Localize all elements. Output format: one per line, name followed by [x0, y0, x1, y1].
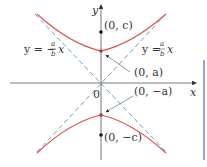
vertex-top-point	[99, 49, 103, 53]
focus-top-label: (0, c)	[104, 19, 133, 32]
x-axis-label: x	[190, 86, 197, 99]
svg-text:x: x	[58, 43, 65, 56]
focus-top-point	[99, 30, 103, 34]
origin-label: 0	[93, 88, 100, 101]
focus-bottom-point	[99, 133, 103, 137]
svg-text:y =: y =	[141, 43, 161, 56]
svg-text:x: x	[167, 43, 174, 56]
svg-text:b: b	[160, 50, 165, 58]
svg-text:a: a	[51, 40, 55, 48]
asymptote-negative-label: y = − a b x	[23, 40, 65, 58]
vertex-bottom-label: (0, −a)	[134, 85, 172, 98]
vertex-top-pointer	[106, 55, 130, 72]
vertex-bottom-point	[99, 113, 103, 117]
svg-text:b: b	[51, 50, 56, 58]
side-bar	[203, 60, 205, 160]
svg-text:a: a	[160, 40, 164, 48]
asymptote-positive-label: y = a b x	[141, 40, 174, 58]
y-axis-label: y	[91, 4, 99, 17]
vertex-top-label: (0, a)	[134, 66, 163, 79]
focus-bottom-label: (0, −c)	[104, 131, 142, 144]
vertex-bottom-pointer	[106, 96, 133, 112]
hyperbola-diagram: y x 0 (0, c) (0, a) (0, −a) (0, −c) y = …	[0, 0, 207, 167]
